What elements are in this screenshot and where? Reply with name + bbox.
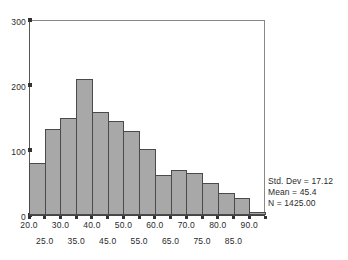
histogram-bar <box>92 112 109 215</box>
x-axis-tick-mark <box>248 216 251 219</box>
x-axis-tick-label: 35.0 <box>68 236 85 246</box>
x-axis-tick-label: 85.0 <box>225 236 242 246</box>
x-axis-tick-label: 80.0 <box>209 220 226 230</box>
x-axis-tick-mark <box>59 216 62 219</box>
y-axis: 3002001000 <box>0 0 29 216</box>
x-axis-tick-mark <box>75 216 78 219</box>
y-axis-tick: 100 <box>11 145 29 155</box>
y-axis-tick-label: 100 <box>11 147 29 157</box>
histogram-bar <box>29 163 46 215</box>
histogram-bar <box>139 149 156 215</box>
x-axis-tick-label: 25.0 <box>36 236 53 246</box>
x-axis-tick-label: 70.0 <box>178 220 195 230</box>
histogram-bar <box>60 118 77 216</box>
x-axis-tick-label: 60.0 <box>146 220 163 230</box>
histogram-bar <box>155 175 172 215</box>
x-axis-tick-mark <box>28 216 31 219</box>
mean-text: Mean = 45.4 <box>268 187 346 198</box>
bars-container <box>29 20 265 215</box>
x-axis-tick-mark <box>106 216 109 219</box>
x-axis-tick-mark <box>90 216 93 219</box>
statistics-box: Std. Dev = 17.12 Mean = 45.4 N = 1425.00 <box>268 176 346 209</box>
x-axis-tick-mark <box>216 216 219 219</box>
y-axis-tick: 200 <box>11 80 29 90</box>
x-axis-labels-upper: 20.030.040.050.060.070.080.090.0 <box>0 220 348 232</box>
histogram-bar <box>108 121 125 215</box>
std-dev-text: Std. Dev = 17.12 <box>268 176 346 187</box>
x-axis-tick-mark <box>169 216 172 219</box>
x-axis-tick-mark <box>43 216 46 219</box>
x-axis-tick-mark <box>201 216 204 219</box>
x-axis-tick-mark <box>264 216 267 219</box>
histogram-bar <box>45 129 62 215</box>
x-axis-tick-label: 75.0 <box>193 236 210 246</box>
y-axis-tick: 300 <box>11 15 29 25</box>
y-axis-tick-label: 300 <box>11 17 29 27</box>
histogram-bar <box>234 198 251 215</box>
x-axis-tick-label: 65.0 <box>162 236 179 246</box>
histogram-bar <box>202 183 219 216</box>
histogram-bar <box>186 173 203 215</box>
x-axis-tick-mark <box>185 216 188 219</box>
x-axis-tick-mark <box>138 216 141 219</box>
histogram-chart: 3002001000 20.030.040.050.060.070.080.09… <box>0 0 348 260</box>
x-axis-tick-mark <box>232 216 235 219</box>
histogram-bar <box>76 79 93 216</box>
sample-size-text: N = 1425.00 <box>268 198 346 209</box>
x-axis-labels-lower: 25.035.045.055.065.075.085.0 <box>0 236 348 248</box>
x-axis-tick-label: 30.0 <box>52 220 69 230</box>
x-axis-tick-mark <box>153 216 156 219</box>
histogram-bar <box>171 170 188 216</box>
y-axis-tick-label: 200 <box>11 82 29 92</box>
x-axis-tick-label: 20.0 <box>20 220 37 230</box>
x-axis-tick-mark <box>122 216 125 219</box>
histogram-bar <box>218 193 235 215</box>
x-axis-tick-label: 55.0 <box>130 236 147 246</box>
x-axis-tick-label: 90.0 <box>241 220 258 230</box>
x-axis-tick-label: 50.0 <box>115 220 132 230</box>
x-axis-tick-label: 40.0 <box>83 220 100 230</box>
histogram-bar <box>123 131 140 215</box>
x-axis-tick-label: 45.0 <box>99 236 116 246</box>
